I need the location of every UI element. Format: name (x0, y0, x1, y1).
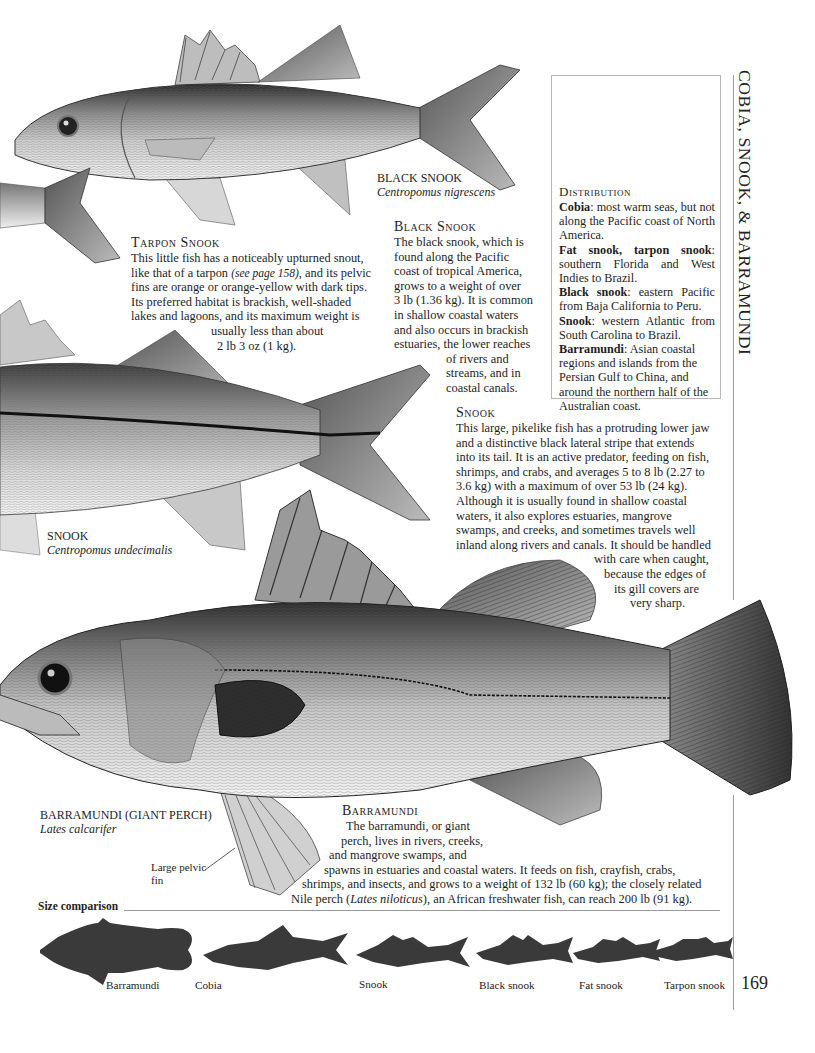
size-comparison-silhouettes (38, 915, 738, 985)
distribution-heading: Distribution (559, 184, 715, 200)
text-line: and mangrove swamps, and (276, 848, 726, 863)
barramundi-latin-name: Lates calcarifer (40, 822, 212, 836)
cobia-silhouette-icon (203, 925, 348, 970)
text-line: and a distinctive black lateral stripe t… (456, 436, 728, 451)
tarpon-snook-tail-illustration (0, 168, 130, 268)
barramundi-heading: Barramundi (276, 803, 726, 819)
distribution-entry-black-snook: Black snook: eastern Pacific from Baja C… (559, 285, 715, 313)
silhouette-label-cobia: Cobia (195, 979, 222, 991)
text-line: spawns in estuaries and coastal waters. … (276, 863, 726, 878)
text-line: found along the Pacific (394, 250, 554, 265)
distribution-entry-fat-tarpon-snook: Fat snook, tarpon snook: southern Florid… (559, 243, 715, 286)
text-line: shrimps, and crabs, and averages 5 to 8 … (456, 465, 728, 480)
barramundi-body: The barramundi, or giant perch, lives in… (276, 819, 726, 907)
annotation-line: fin (151, 874, 206, 887)
annotation-line: Large pelvic (151, 861, 206, 874)
distribution-box: Distribution Cobia: most warm seas, but … (551, 75, 721, 399)
barramundi-caption: BARRAMUNDI (GIANT PERCH) Lates calcarife… (40, 808, 212, 836)
tarpon-snook-heading: Tarpon Snook (131, 235, 391, 251)
black-snook-heading: Black Snook (394, 219, 554, 235)
silhouette-label-tarpon-snook: Tarpon snook (664, 979, 725, 991)
text-line: Nile perch (Lates niloticus), an African… (276, 892, 726, 907)
black-snook-latin-name: Centropomus nigrescens (377, 185, 495, 199)
pelvic-fin-annotation: Large pelvic fin (151, 861, 206, 887)
text-line: like that of a tarpon (see page 158), an… (131, 266, 391, 281)
silhouette-label-snook: Snook (359, 978, 388, 990)
text-line: fins are orange or orange-yellow with da… (131, 280, 391, 295)
text-line: The black snook, which is (394, 235, 554, 250)
silhouette-label-black-snook: Black snook (479, 979, 535, 991)
text-line: shrimps, and insects, and grows to a wei… (276, 877, 726, 892)
size-comparison-rule (124, 910, 720, 911)
text-line: coast of tropical America, (394, 264, 554, 279)
distribution-entry-barramundi: Barramundi: Asian coastal regions and is… (559, 342, 715, 413)
silhouette-label-fat-snook: Fat snook (579, 979, 623, 991)
black-snook-common-name: BLACK SNOOK (377, 171, 495, 185)
barramundi-common-name: BARRAMUNDI (GIANT PERCH) (40, 808, 212, 822)
text-line: into its tail. It is an active predator,… (456, 450, 728, 465)
distribution-entry-cobia: Cobia: most warm seas, but not along the… (559, 200, 715, 243)
page-number: 169 (741, 973, 768, 994)
silhouette-label-barramundi: Barramundi (106, 979, 159, 991)
barramundi-section: Barramundi The barramundi, or giant perc… (276, 803, 726, 907)
snook-heading: Snook (456, 405, 728, 421)
text-line: perch, lives in rivers, creeks, (276, 834, 726, 849)
running-head: COBIA, SNOOK, & BARRAMUNDI (734, 70, 755, 355)
pelvic-fin-leader-line (205, 846, 245, 876)
text-line: The barramundi, or giant (276, 819, 726, 834)
black-snook-caption: BLACK SNOOK Centropomus nigrescens (377, 171, 495, 199)
tarpon-snook-silhouette-icon (653, 937, 733, 961)
text-line: grows to a weight of over (394, 279, 554, 294)
barramundi-silhouette-icon (40, 918, 192, 985)
page-reference: (see page 158) (231, 267, 299, 279)
size-comparison-label: Size comparison (38, 900, 118, 912)
black-snook-silhouette-icon (476, 935, 573, 965)
fat-snook-silhouette-icon (573, 937, 660, 963)
snook-silhouette-icon (356, 935, 470, 967)
text-line: This large, pikelike fish has a protrudi… (456, 421, 728, 436)
distribution-entry-snook: Snook: western Atlantic from South Carol… (559, 314, 715, 342)
text-line: This little fish has a noticeably upturn… (131, 251, 391, 266)
latin-name-nile-perch: Lates niloticus (350, 892, 423, 906)
